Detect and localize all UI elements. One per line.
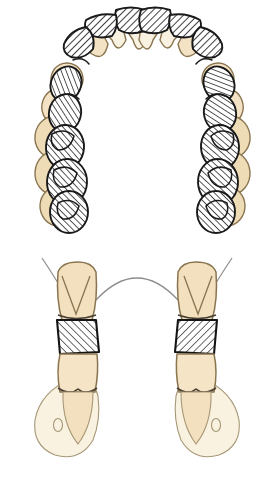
overlay-central-incisor-right xyxy=(139,8,171,34)
bite-block-left xyxy=(57,320,99,354)
dental-illustration xyxy=(0,0,274,479)
bite-block-right xyxy=(175,320,217,354)
figure-root xyxy=(0,0,274,479)
overlay-third-molar-left xyxy=(50,191,88,233)
overlay-third-molar-right xyxy=(197,191,235,233)
lower-molar-right xyxy=(176,354,216,392)
lower-molar-left xyxy=(58,354,98,392)
